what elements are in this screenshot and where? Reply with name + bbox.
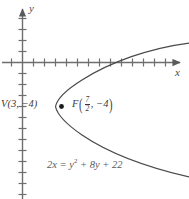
equation-rhs: + 8y + 22 xyxy=(77,159,122,170)
focus-paren-open: ( xyxy=(79,96,83,113)
focus-fraction: 7 2 xyxy=(85,96,91,113)
equation-lhs: 2x = y xyxy=(47,159,74,170)
equation-label: 2x = y2 + 8y + 22 xyxy=(47,158,123,170)
focus-fraction-denominator: 2 xyxy=(85,105,91,113)
vertex-label: V(3, −4) xyxy=(1,99,37,110)
focus-label: F ( 7 2 , −4 ) xyxy=(72,96,114,113)
focus-point xyxy=(59,104,64,109)
axis-label-y: y xyxy=(29,3,34,14)
focus-label-second: , −4 xyxy=(91,99,109,110)
focus-paren-close: ) xyxy=(110,96,114,113)
axis-label-x: x xyxy=(175,67,180,78)
parabola-figure: y x V(3, −4) F ( 7 2 , −4 ) 2x = y2 + 8y… xyxy=(0,0,189,199)
focus-label-prefix: F xyxy=(72,99,78,110)
